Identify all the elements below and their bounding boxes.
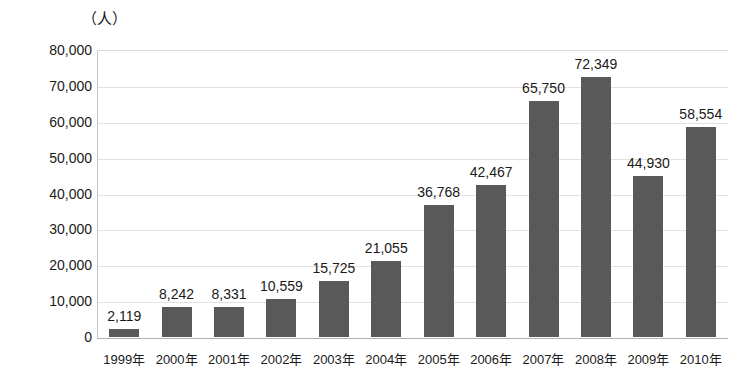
bar-slot: 2,119 xyxy=(98,50,150,337)
bar[interactable] xyxy=(319,281,349,337)
x-axis-tick-label: 2000年 xyxy=(156,352,198,368)
y-axis-tick-label: 0 xyxy=(6,330,92,344)
y-axis-tick-label: 40,000 xyxy=(6,187,92,201)
y-axis-unit-label: （人） xyxy=(82,10,127,28)
bar-value-label: 15,725 xyxy=(312,261,355,275)
bar-slot: 72,349 xyxy=(570,50,622,337)
bar-slot: 10,559 xyxy=(255,50,307,337)
bar-value-label: 72,349 xyxy=(575,57,618,71)
bar-value-label: 8,331 xyxy=(212,287,247,301)
bar[interactable] xyxy=(162,307,192,337)
bar-chart: （人） 80,00070,00060,00050,00040,00030,000… xyxy=(0,0,755,384)
bar[interactable] xyxy=(633,176,663,337)
bar[interactable] xyxy=(266,299,296,337)
bar-slot: 36,768 xyxy=(413,50,465,337)
bar[interactable] xyxy=(371,261,401,337)
y-axis-tick-label: 10,000 xyxy=(6,294,92,308)
bar-slot: 8,331 xyxy=(203,50,255,337)
y-axis-tick-label: 60,000 xyxy=(6,115,92,129)
x-axis-tick-label: 1999年 xyxy=(103,352,145,368)
x-axis-tick-label: 2004年 xyxy=(365,352,407,368)
y-axis-tick-label: 80,000 xyxy=(6,43,92,57)
x-axis-tick-label: 2007年 xyxy=(523,352,565,368)
x-axis-tick-label: 2008年 xyxy=(575,352,617,368)
x-axis-tick-label: 2003年 xyxy=(313,352,355,368)
bar-value-label: 58,554 xyxy=(679,107,722,121)
y-axis-tick-labels: 80,00070,00060,00050,00040,00030,00020,0… xyxy=(0,50,92,338)
bar[interactable] xyxy=(529,101,559,337)
bar[interactable] xyxy=(476,185,506,337)
y-axis-tick-label: 30,000 xyxy=(6,222,92,236)
x-axis-tick-label: 2005年 xyxy=(418,352,460,368)
y-axis-tick-label: 20,000 xyxy=(6,258,92,272)
x-axis-tick-label: 2010年 xyxy=(680,352,722,368)
bar-slot: 42,467 xyxy=(465,50,517,337)
x-axis-tick-label: 2002年 xyxy=(260,352,302,368)
bar-slot: 21,055 xyxy=(360,50,412,337)
bar[interactable] xyxy=(424,205,454,337)
x-axis-tick-labels: 1999年2000年2001年2002年2003年2004年2005年2006年… xyxy=(98,352,727,372)
bar-value-label: 36,768 xyxy=(417,185,460,199)
y-axis-tick-label: 70,000 xyxy=(6,79,92,93)
bar-slot: 15,725 xyxy=(308,50,360,337)
bar-slot: 58,554 xyxy=(675,50,727,337)
bar[interactable] xyxy=(686,127,716,337)
bar-value-label: 8,242 xyxy=(159,287,194,301)
y-axis-tick-label: 50,000 xyxy=(6,151,92,165)
x-axis-tick-label: 2009年 xyxy=(627,352,669,368)
bar-value-label: 21,055 xyxy=(365,241,408,255)
bar-value-label: 2,119 xyxy=(107,309,141,323)
bar-value-label: 65,750 xyxy=(522,81,565,95)
bar[interactable] xyxy=(581,77,611,337)
bar-slot: 8,242 xyxy=(150,50,202,337)
bar-value-label: 42,467 xyxy=(470,165,513,179)
x-axis-tick-label: 2006年 xyxy=(470,352,512,368)
bar-series: 2,1198,2428,33110,55915,72521,05536,7684… xyxy=(98,50,727,337)
bar-value-label: 44,930 xyxy=(627,156,670,170)
bar[interactable] xyxy=(214,307,244,337)
bar-slot: 65,750 xyxy=(517,50,569,337)
bar-slot: 44,930 xyxy=(622,50,674,337)
bar[interactable] xyxy=(109,329,139,337)
x-axis-tick-label: 2001年 xyxy=(208,352,250,368)
bar-value-label: 10,559 xyxy=(260,279,303,293)
